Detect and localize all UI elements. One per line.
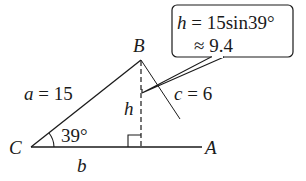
vertex-label-a: A xyxy=(203,137,217,158)
altitude-label-h: h xyxy=(124,98,134,119)
callout-line-2: ≈ 9.4 xyxy=(194,35,233,56)
triangle-diagram: h = 15sin39° ≈ 9.4 B C A a = 15 c = 6 b … xyxy=(0,0,306,181)
right-angle-marker xyxy=(128,135,141,147)
side-label-b: b xyxy=(77,155,87,176)
side-label-a: a = 15 xyxy=(24,83,73,104)
angle-label-c: 39° xyxy=(61,125,88,146)
side-label-c: c = 6 xyxy=(174,83,212,104)
vertex-label-b: B xyxy=(133,35,145,56)
vertex-label-c: C xyxy=(9,137,22,158)
callout-line-1: h = 15sin39° xyxy=(177,12,275,33)
angle-arc-c xyxy=(49,133,54,147)
